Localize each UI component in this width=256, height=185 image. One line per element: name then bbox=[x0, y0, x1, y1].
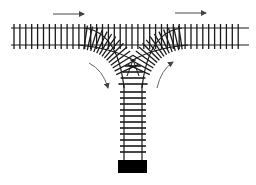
spur-rails bbox=[124, 85, 142, 162]
bumper-block bbox=[118, 160, 147, 173]
frog bbox=[127, 60, 139, 76]
curved-arrow-right bbox=[157, 62, 173, 88]
curved-arrow-left bbox=[89, 63, 108, 88]
wye-junction-diagram bbox=[0, 0, 256, 185]
main-line-rails bbox=[11, 28, 249, 45]
